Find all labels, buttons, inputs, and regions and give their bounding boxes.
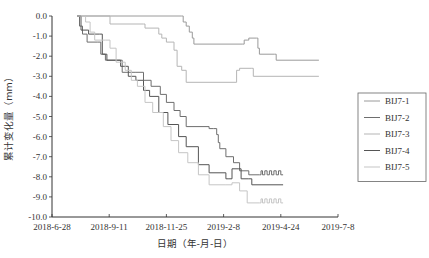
x-tick-label: 2018-9-11 xyxy=(91,222,128,232)
legend-label: BIJ7-3 xyxy=(385,129,410,139)
series-line-bij7-1 xyxy=(77,16,319,60)
y-tick-label: -5.0 xyxy=(33,112,48,122)
y-tick-label: 0.0 xyxy=(36,11,48,21)
axes xyxy=(52,16,338,217)
y-ticks: 0.0-1.0-2.0-3.0-4.0-5.0-6.0-7.0-8.0-9.0-… xyxy=(28,11,52,222)
y-tick-label: -9.0 xyxy=(33,192,48,202)
y-axis-title: 累计变化量（mm） xyxy=(3,72,14,161)
y-tick-label: -4.0 xyxy=(33,91,48,101)
y-tick-label: -8.0 xyxy=(33,172,48,182)
line-chart: 0.0-1.0-2.0-3.0-4.0-5.0-6.0-7.0-8.0-9.0-… xyxy=(0,0,429,258)
legend: BIJ7-1BIJ7-2BIJ7-3BIJ7-4BIJ7-5 xyxy=(358,93,426,182)
y-tick-label: -10.0 xyxy=(28,212,47,222)
y-tick-label: -3.0 xyxy=(33,71,48,81)
series-lines xyxy=(77,16,319,203)
legend-label: BIJ7-1 xyxy=(385,96,410,106)
legend-label: BIJ7-2 xyxy=(385,113,410,123)
y-tick-label: -2.0 xyxy=(33,51,48,61)
x-tick-label: 2019-4-24 xyxy=(262,222,300,232)
y-tick-label: -6.0 xyxy=(33,132,48,142)
legend-label: BIJ7-5 xyxy=(385,162,410,172)
x-tick-label: 2019-7-8 xyxy=(322,222,355,232)
x-tick-label: 2018-6-28 xyxy=(33,222,71,232)
x-tick-label: 2018-11-25 xyxy=(146,222,188,232)
y-tick-label: -1.0 xyxy=(33,31,48,41)
x-axis-title: 日期（年-月-日） xyxy=(157,238,234,249)
series-line-bij7-4 xyxy=(77,16,283,185)
legend-label: BIJ7-4 xyxy=(385,146,410,156)
x-tick-label: 2019-2-8 xyxy=(207,222,240,232)
y-tick-label: -7.0 xyxy=(33,152,48,162)
series-line-bij7-3 xyxy=(77,16,319,82)
